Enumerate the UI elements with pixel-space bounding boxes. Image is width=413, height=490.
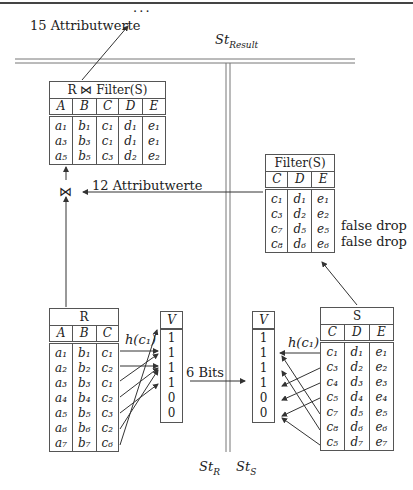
v-left-bits: 1 1 1 1 0 0 (160, 329, 183, 423)
cell: e₁ (369, 342, 393, 361)
v-left-title: V (160, 311, 183, 329)
cell: d₂ (344, 360, 369, 375)
col-header: D (119, 99, 143, 116)
table-row: c₅d₄e₄ (321, 390, 394, 405)
col-header: B (73, 99, 97, 116)
col-header: D (288, 172, 312, 189)
cell: c₈ (321, 420, 345, 435)
cell: d₇ (344, 435, 369, 451)
cell: e₂ (142, 149, 165, 165)
bit: 1 (161, 346, 182, 361)
cell: c₆ (96, 436, 118, 452)
col-header: B (72, 326, 96, 343)
cell: e₂ (369, 360, 393, 375)
cell: c₄ (321, 375, 345, 390)
result-table-title: R ⋈ Filter(S) (50, 82, 166, 99)
cell: c₂ (96, 421, 118, 436)
col-header: A (50, 99, 73, 116)
table-row: c₃ d₂ e₂ (266, 207, 335, 222)
table-row: a₃ b₃ c₁ d₁ e₁ (50, 134, 166, 149)
table-row: c₇ d₅ e₅ (266, 222, 335, 237)
cell: a₁ (50, 116, 73, 135)
v-right-bits: 1 1 1 1 0 0 (252, 329, 275, 423)
cell: c₈ (266, 237, 288, 253)
col-header: E (142, 99, 165, 116)
table-row: a₅ b₅ c₃ d₂ e₂ (50, 149, 166, 165)
cell: c₃ (321, 360, 345, 375)
cell: d₂ (288, 207, 312, 222)
table-row: c₈ d₆ e₆ (266, 237, 335, 253)
table-row: a₁ b₁ c₁ d₁ e₁ (50, 116, 166, 135)
cell: a₂ (50, 361, 73, 376)
cell: c₇ (266, 222, 288, 237)
table-row: a₇b₇c₆ (50, 436, 119, 452)
cell: b₂ (72, 361, 96, 376)
cell: b₄ (72, 391, 96, 406)
cell: a₆ (50, 421, 73, 436)
st-r-label: StR (199, 459, 220, 477)
cell: a₅ (50, 406, 73, 421)
cell: d₆ (288, 237, 312, 253)
cell: a₃ (50, 376, 73, 391)
r-table-title: R (50, 309, 119, 326)
hash-right-label: h(c₁) (288, 335, 319, 350)
cell: d₅ (288, 222, 312, 237)
cell: a₇ (50, 436, 73, 452)
cell: b₇ (72, 436, 96, 452)
filter-attrs-label: 12 Attributwerte (92, 178, 203, 193)
cell: c₇ (321, 405, 345, 420)
cell: e₅ (369, 405, 393, 420)
cell: b₆ (72, 421, 96, 436)
cell: e₂ (312, 207, 335, 222)
cell: d₆ (344, 420, 369, 435)
bits-label: 6 Bits (186, 365, 224, 380)
table-row: c₈d₆e₆ (321, 420, 394, 435)
col-header: C (96, 99, 119, 116)
filter-table-title: Filter(S) (266, 155, 335, 172)
bit: 0 (161, 406, 182, 421)
r-table: R A B C a₁b₁c₁ a₂b₂c₂ a₃b₃c₁ a₄b₄c₂ a₅b₅… (49, 308, 119, 452)
false-drop-1: false drop (341, 218, 407, 233)
s-table-title: S (321, 308, 394, 325)
table-row: c₄d₃e₃ (321, 375, 394, 390)
filter-table: Filter(S) C D E c₁ d₁ e₁ c₃ d₂ e₂ c₇ d₅ … (265, 154, 335, 253)
cell: b₁ (72, 343, 96, 362)
cell: c₁ (96, 134, 119, 149)
cell: d₁ (344, 342, 369, 361)
cell: e₄ (369, 390, 393, 405)
result-attrs-label: 15 Attributwerte (30, 18, 141, 33)
cell: b₃ (73, 134, 97, 149)
table-row: c₁d₁e₁ (321, 342, 394, 361)
cell: c₁ (96, 343, 118, 362)
col-header: C (266, 172, 288, 189)
table-row: c₃d₂e₂ (321, 360, 394, 375)
false-drop-2: false drop (341, 234, 407, 249)
st-result-label: StResult (215, 32, 258, 50)
table-row: a₃b₃c₁ (50, 376, 119, 391)
cell: c₂ (96, 391, 118, 406)
cell: b₃ (72, 376, 96, 391)
col-header: A (50, 326, 73, 343)
table-row: c₇d₅e₅ (321, 405, 394, 420)
cell: a₅ (50, 149, 73, 165)
cell: b₅ (72, 406, 96, 421)
cell: d₁ (288, 189, 312, 208)
cell: a₁ (50, 343, 73, 362)
bit: 1 (253, 376, 274, 391)
cell: d₁ (119, 134, 143, 149)
cell: e₅ (312, 222, 335, 237)
cell: e₆ (369, 420, 393, 435)
cell: e₆ (312, 237, 335, 253)
cell: d₂ (119, 149, 143, 165)
table-row: a₁b₁c₁ (50, 343, 119, 362)
col-header: C (96, 326, 118, 343)
v-right-title: V (252, 311, 275, 329)
cell: c₅ (321, 390, 345, 405)
s-table: S C D E c₁d₁e₁ c₃d₂e₂ c₄d₃e₃ c₅d₄e₄ c₇d₅… (320, 307, 394, 451)
cell: c₃ (96, 406, 118, 421)
col-header: E (369, 325, 393, 342)
col-header: D (344, 325, 369, 342)
cell: b₁ (73, 116, 97, 135)
table-row: a₆b₆c₂ (50, 421, 119, 436)
hash-left-label: h(c₁) (125, 332, 156, 347)
